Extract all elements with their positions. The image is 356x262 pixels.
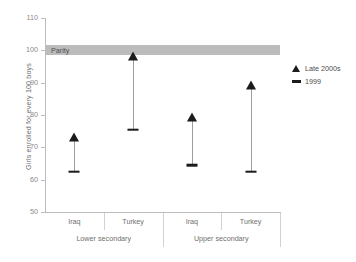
y-axis-tick-label: 70 (17, 143, 38, 150)
legend-item[interactable]: 1999 (290, 76, 354, 87)
y-axis-tick (41, 147, 45, 148)
x-axis-country-label: Iraq (45, 213, 104, 230)
x-axis-country-label: Iraq (163, 213, 222, 230)
parity-band: Parity (45, 45, 280, 55)
x-axis-country-label: Turkey (221, 213, 280, 230)
data-point-dash-1999 (186, 164, 197, 167)
y-axis-tick-label: 90 (17, 79, 38, 86)
y-axis-tick (41, 83, 45, 84)
range-connector-line (251, 86, 252, 172)
data-point-dash-1999 (69, 170, 80, 173)
x-axis-categories: IraqTurkeyIraqTurkey Lower secondaryUppe… (45, 213, 281, 247)
triangle-icon (290, 65, 302, 72)
data-point-dash-1999 (245, 170, 256, 173)
x-axis-country-label: Turkey (104, 213, 163, 230)
y-axis-tick (41, 18, 45, 19)
y-axis-tick (41, 115, 45, 116)
x-axis-country-row: IraqTurkeyIraqTurkey (45, 213, 281, 230)
data-point-triangle-late-2000s (69, 132, 79, 141)
y-axis-tick-label: 60 (17, 176, 38, 183)
x-axis-separator (104, 213, 105, 230)
y-axis-tick (41, 180, 45, 181)
chart-legend: Late 2000s1999 (290, 63, 354, 89)
parity-band-label: Parity (51, 46, 69, 55)
data-point-triangle-late-2000s (187, 113, 197, 122)
x-axis-group-label: Upper secondary (163, 230, 281, 247)
data-point-triangle-late-2000s (128, 51, 138, 60)
x-axis-group-label: Lower secondary (45, 230, 163, 247)
y-axis-tick-label: 100 (17, 46, 38, 53)
data-point-dash-1999 (128, 128, 139, 131)
y-axis-tick-label: 80 (17, 111, 38, 118)
range-connector-line (74, 138, 75, 172)
x-axis-separator (221, 213, 222, 230)
legend-item-label: Late 2000s (305, 64, 341, 73)
chart-container: Girls enrolled for every 100 boys 506070… (0, 0, 356, 262)
y-axis-tick-label: 110 (17, 14, 38, 21)
y-axis-tick-label: 50 (17, 208, 38, 215)
plot-area: 5060708090100110 Parity (45, 18, 280, 212)
dash-icon (290, 80, 302, 82)
data-point-triangle-late-2000s (246, 80, 256, 89)
range-connector-line (133, 57, 134, 130)
x-axis-level-row: Lower secondaryUpper secondary (45, 230, 281, 247)
legend-item[interactable]: Late 2000s (290, 63, 354, 74)
range-connector-line (192, 118, 193, 165)
legend-item-label: 1999 (305, 77, 321, 86)
